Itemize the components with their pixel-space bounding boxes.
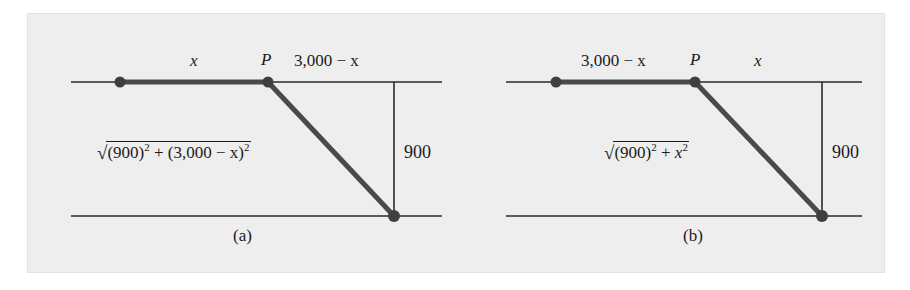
- panel-a-point-p-dot: [263, 77, 274, 88]
- panel-a-hypotenuse-expression: √(900)2 + (3,000 − x)2: [97, 141, 251, 162]
- panel-a-term2-exponent: 2: [244, 141, 250, 153]
- panel-b-point-label: P: [690, 51, 700, 68]
- panel-a-radicand: (900)2 + (3,000 − x)2: [106, 141, 250, 161]
- panel-b-operator: +: [661, 143, 671, 162]
- panel-b-term1-base: (900): [614, 143, 651, 162]
- panel-a-point-label: P: [261, 51, 271, 68]
- panel-a-top-left-segment-label: x: [190, 52, 198, 69]
- panel-a-term1-base: (900): [107, 143, 144, 162]
- panel-b-top-left-segment-label: 3,000 − x: [581, 52, 646, 69]
- panel-b-term1-exponent: 2: [651, 141, 657, 153]
- panel-b-path-diagonal: [695, 82, 822, 216]
- panel-a-caption: (a): [233, 227, 252, 244]
- panel-a-vertical-label: 900: [404, 143, 431, 161]
- panel-b-top-right-segment-label: x: [754, 52, 762, 69]
- panel-a-top-right-segment-label: 3,000 − x: [294, 52, 359, 69]
- panel-a-operator: +: [154, 143, 164, 162]
- panel-a-end-point-dot: [388, 210, 400, 222]
- panel-b-radicand: (900)2 + x2: [613, 141, 688, 161]
- panel-b-end-point-dot: [816, 210, 828, 222]
- panel-b-point-p-dot: [690, 77, 701, 88]
- panel-b-start-point-dot: [551, 77, 562, 88]
- panel-a-start-point-dot: [115, 77, 126, 88]
- figure-root: x P 3,000 − x 900 √(900)2 + (3,000 − x)2…: [0, 0, 910, 290]
- panel-a-term1-exponent: 2: [144, 141, 150, 153]
- panel-b-hypotenuse-expression: √(900)2 + x2: [604, 141, 689, 162]
- panel-b-term2-exponent: 2: [682, 141, 688, 153]
- panel-b-caption: (b): [683, 227, 703, 244]
- panel-b-vertical-label: 900: [832, 143, 859, 161]
- panel-a-term2-base: (3,000 − x): [168, 143, 244, 162]
- panel-a-path-diagonal: [268, 82, 394, 216]
